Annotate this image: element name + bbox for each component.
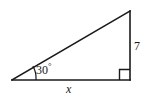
geometry-figure: 30° 7 x bbox=[0, 0, 146, 100]
right-angle-square-icon bbox=[120, 70, 131, 81]
base-label: x bbox=[66, 83, 71, 95]
triangle-hypotenuse-line bbox=[12, 11, 130, 80]
vertical-leg-label: 7 bbox=[134, 40, 140, 52]
triangle-drawing bbox=[0, 0, 146, 100]
degree-symbol-icon: ° bbox=[48, 61, 52, 71]
angle-value: 30 bbox=[36, 63, 48, 77]
angle-label: 30° bbox=[36, 62, 52, 76]
